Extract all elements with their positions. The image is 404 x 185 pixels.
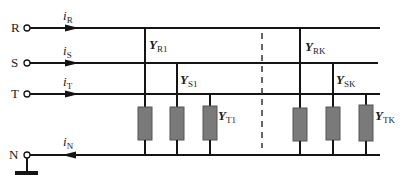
terminal-label-r: R [11, 20, 20, 35]
current-arrow-n-icon [62, 152, 76, 159]
current-label-n: iN [63, 134, 74, 151]
terminal-s-icon [24, 60, 30, 66]
admittance-label-t1: YT1 [218, 108, 236, 125]
current-label-s: iS [63, 43, 72, 60]
ground-icon [15, 158, 38, 175]
current-arrow-t-icon [65, 91, 79, 98]
admittance-tk [359, 94, 373, 155]
terminal-n-icon [24, 152, 30, 158]
terminal-label-n: N [9, 147, 19, 162]
current-label-r: iR [63, 8, 73, 25]
current-arrow-s-icon [65, 60, 79, 67]
admittance-label-tk: YTK [375, 108, 395, 125]
three-phase-circuit-diagram: R S T N iR iS iT iN [0, 0, 404, 185]
terminal-label-s: S [11, 55, 18, 70]
admittance-label-s1: YS1 [180, 72, 197, 89]
current-arrow-r-icon [65, 25, 79, 32]
terminal-r-icon [24, 25, 30, 31]
terminal-t-icon [24, 91, 30, 97]
current-label-t: iT [63, 74, 73, 91]
admittance-label-sk: YSK [336, 72, 356, 89]
admittance-t1 [203, 94, 217, 155]
admittance-label-rk: YRK [305, 39, 326, 56]
admittance-label-r1: YR1 [149, 37, 167, 54]
terminal-label-t: T [11, 86, 19, 101]
